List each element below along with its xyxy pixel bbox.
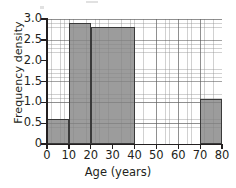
y-tick-label: 3.0 <box>16 13 42 24</box>
histogram-figure: Frequency density 00.51.01.52.02.53.0 01… <box>0 0 236 188</box>
histogram-bar <box>47 119 69 144</box>
y-tick-mark <box>41 81 47 82</box>
plot-area <box>47 19 222 144</box>
x-tick-mark <box>134 145 135 149</box>
x-tick-mark <box>221 145 222 149</box>
y-tick-mark <box>41 123 47 124</box>
y-tick-label: 0.5 <box>16 117 42 128</box>
y-tick-label: 2.0 <box>16 55 42 66</box>
x-axis-label: Age (years) <box>0 165 236 179</box>
histogram-bar <box>91 27 135 144</box>
x-tick-mark <box>90 145 91 149</box>
y-tick-mark <box>41 18 47 19</box>
x-axis-tick-labels: 01020304050607080 <box>0 149 236 165</box>
x-tick-label: 80 <box>207 149 236 162</box>
x-tick-mark <box>112 145 113 149</box>
scan-artifact <box>86 1 98 3</box>
y-tick-label: 1.5 <box>16 76 42 87</box>
x-tick-mark <box>200 145 201 149</box>
histogram-bar <box>200 99 222 144</box>
x-tick-mark <box>178 145 179 149</box>
x-tick-mark <box>156 145 157 149</box>
y-tick-label: 2.5 <box>16 34 42 45</box>
x-tick-mark <box>68 145 69 149</box>
bars-group <box>47 19 222 144</box>
y-tick-label: 0 <box>16 138 42 149</box>
y-tick-mark <box>41 102 47 103</box>
y-tick-label: 1.0 <box>16 96 42 107</box>
y-tick-mark <box>41 39 47 40</box>
histogram-bar <box>69 23 91 144</box>
y-tick-mark <box>41 60 47 61</box>
x-tick-mark <box>46 145 47 149</box>
